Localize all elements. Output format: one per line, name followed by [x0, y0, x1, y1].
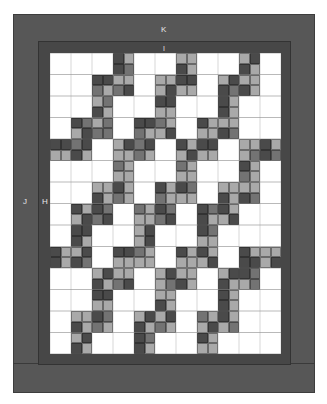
quilt-cell — [71, 193, 82, 204]
quilt-cell — [92, 214, 103, 225]
quilt-cell — [229, 64, 240, 75]
quilt-cell — [82, 85, 93, 96]
quilt-cell — [166, 257, 177, 268]
quilt-cell — [124, 107, 135, 118]
quilt-cell — [113, 139, 124, 150]
quilt-cell — [218, 107, 229, 118]
quilt-cell — [145, 311, 156, 322]
quilt-cell — [218, 247, 229, 258]
quilt-cell — [197, 96, 208, 107]
quilt-cell — [260, 322, 271, 333]
quilt-cell — [187, 128, 198, 139]
quilt-cell — [229, 236, 240, 247]
quilt-cell — [187, 118, 198, 129]
quilt-cell — [61, 182, 72, 193]
quilt-cell — [239, 75, 250, 86]
quilt-cell — [208, 128, 219, 139]
quilt-cell — [166, 75, 177, 86]
quilt-cell — [271, 290, 282, 301]
quilt-cell — [155, 85, 166, 96]
label-outer-border: K — [161, 26, 166, 34]
quilt-cell — [155, 139, 166, 150]
quilt-cell — [239, 257, 250, 268]
quilt-cell — [260, 225, 271, 236]
quilt-cell — [113, 193, 124, 204]
label-outer-border-side: J — [23, 198, 27, 206]
quilt-cell — [176, 236, 187, 247]
quilt-cell — [82, 268, 93, 279]
quilt-cell — [250, 333, 261, 344]
quilt-cell — [103, 150, 114, 161]
quilt-cell — [218, 311, 229, 322]
quilt-cell — [208, 150, 219, 161]
quilt-cell — [50, 214, 61, 225]
quilt-cell — [250, 53, 261, 64]
quilt-cell — [50, 193, 61, 204]
quilt-cell — [197, 107, 208, 118]
quilt-cell — [271, 257, 282, 268]
quilt-cell — [250, 75, 261, 86]
quilt-cell — [124, 257, 135, 268]
quilt-cell — [50, 204, 61, 215]
quilt-cell — [197, 139, 208, 150]
quilt-cell — [92, 53, 103, 64]
quilt-cell — [176, 268, 187, 279]
quilt-cell — [208, 214, 219, 225]
quilt-cell — [229, 225, 240, 236]
quilt-cell — [155, 247, 166, 258]
quilt-cell — [250, 257, 261, 268]
quilt-cell — [82, 257, 93, 268]
quilt-cell — [92, 161, 103, 172]
quilt-cell — [197, 171, 208, 182]
quilt-cell — [145, 268, 156, 279]
quilt-cell — [166, 85, 177, 96]
quilt-center-grid — [50, 53, 281, 354]
quilt-cell — [145, 150, 156, 161]
quilt-cell — [124, 193, 135, 204]
quilt-cell — [124, 214, 135, 225]
quilt-cell — [155, 290, 166, 301]
quilt-cell — [187, 75, 198, 86]
quilt-cell — [134, 311, 145, 322]
quilt-cell — [134, 161, 145, 172]
quilt-cell — [113, 236, 124, 247]
quilt-cell — [208, 322, 219, 333]
quilt-cell — [71, 279, 82, 290]
quilt-cell — [103, 236, 114, 247]
quilt-cell — [271, 182, 282, 193]
quilt-cell — [103, 333, 114, 344]
quilt-cell — [71, 268, 82, 279]
quilt-cell — [187, 139, 198, 150]
quilt-cell — [92, 290, 103, 301]
quilt-cell — [145, 75, 156, 86]
quilt-cell — [260, 279, 271, 290]
quilt-cell — [229, 128, 240, 139]
quilt-cell — [50, 247, 61, 258]
quilt-cell — [229, 85, 240, 96]
quilt-cell — [250, 290, 261, 301]
quilt-cell — [82, 139, 93, 150]
quilt-cell — [71, 322, 82, 333]
quilt-cell — [208, 279, 219, 290]
quilt-cell — [208, 290, 219, 301]
quilt-cell — [134, 171, 145, 182]
quilt-cell — [187, 300, 198, 311]
quilt-cell — [166, 214, 177, 225]
quilt-cell — [218, 214, 229, 225]
quilt-cell — [103, 128, 114, 139]
quilt-cell — [250, 343, 261, 354]
quilt-cell — [208, 204, 219, 215]
quilt-cell — [166, 343, 177, 354]
quilt-cell — [50, 182, 61, 193]
quilt-cell — [61, 75, 72, 86]
quilt-cell — [187, 85, 198, 96]
quilt-cell — [134, 182, 145, 193]
quilt-cell — [271, 311, 282, 322]
quilt-cell — [155, 343, 166, 354]
quilt-cell — [239, 343, 250, 354]
quilt-cell — [271, 161, 282, 172]
quilt-cell — [197, 64, 208, 75]
quilt-cell — [82, 118, 93, 129]
quilt-cell — [82, 204, 93, 215]
quilt-cell — [166, 204, 177, 215]
